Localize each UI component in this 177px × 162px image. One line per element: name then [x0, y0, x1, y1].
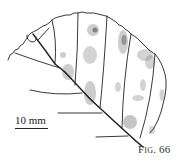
vein-upper-1	[38, 28, 49, 40]
scale-bar-label: 10 mm	[15, 114, 46, 126]
vein-left-2	[30, 90, 82, 94]
vein-right-1	[75, 13, 78, 85]
vein-left-4	[96, 136, 128, 137]
leaf-illustration	[0, 0, 177, 162]
figure-caption: Fig. 66	[138, 143, 170, 155]
vein-right-2	[100, 16, 107, 108]
scale-bar	[15, 128, 48, 129]
vein-upper-2	[52, 20, 56, 64]
